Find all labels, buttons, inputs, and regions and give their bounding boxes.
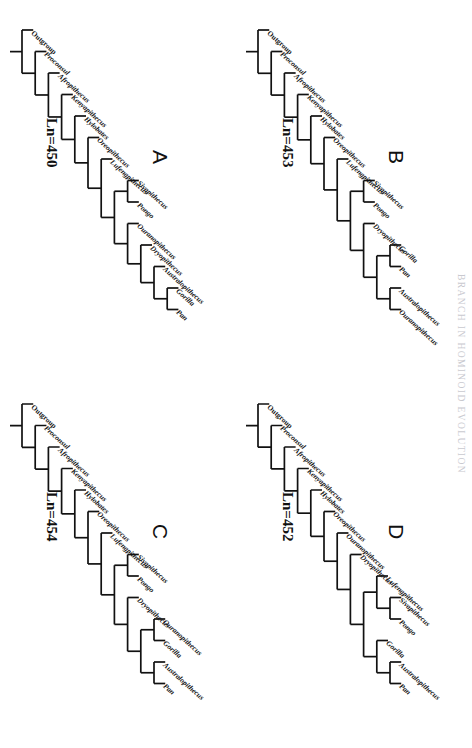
tree-lines-A (0, 0, 236, 374)
cladogram-panel-D: D Ln=452 OutgroupProconsulAfropithecusKe… (236, 374, 472, 748)
figure-page: BRANCH IN HOMINOID EVOLUTION A Ln=450 Ou… (0, 0, 472, 748)
cladogram-panel-B: B Ln=453 OutgroupProconsulAfropithecusKe… (236, 0, 472, 374)
cladogram-panel-A: A Ln=450 OutgroupProconsulAfropithecusKe… (0, 0, 236, 374)
cladogram-panel-C: C Ln=454 OutgroupProconsulAfropithecusKe… (0, 374, 236, 748)
